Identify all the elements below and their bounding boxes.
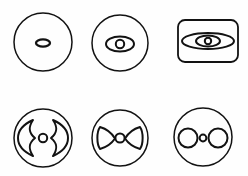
figure-1	[14, 13, 72, 71]
figure-4	[14, 109, 72, 167]
figure-6	[174, 108, 232, 166]
figure-1-outline-circle	[14, 13, 72, 71]
figure-5	[92, 110, 148, 166]
figure-6-outline-circle	[174, 108, 232, 166]
figure-2	[92, 15, 148, 71]
figure-5-center-circle	[115, 133, 124, 142]
figure-3-outline-rounded-rect	[178, 20, 238, 62]
figure-2-outline-circle	[92, 15, 148, 71]
figure-sheet	[0, 0, 248, 176]
figure-4-center-circle	[39, 134, 47, 142]
figure-3	[178, 20, 238, 62]
figure-grid-canvas	[0, 0, 248, 176]
